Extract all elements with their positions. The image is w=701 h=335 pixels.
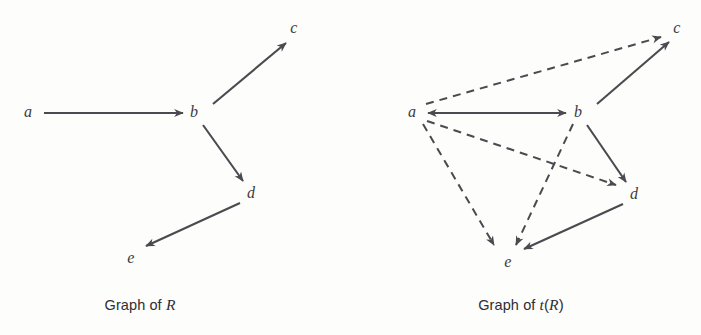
- node-label-graph-of-r-b: b: [190, 103, 198, 121]
- caption-math: R: [166, 296, 176, 313]
- edge-a-to-d-dashed: [427, 121, 616, 185]
- node-label-graph-of-t-r-c: c: [673, 19, 680, 37]
- node-label-graph-of-t-r-e: e: [504, 253, 511, 271]
- node-label-graph-of-r-e: e: [127, 249, 134, 267]
- edge-a-to-c-dashed: [426, 37, 661, 104]
- edge-b-to-c-solid: [213, 43, 286, 104]
- transitive-closure-figure: abcdeabcde Graph of RGraph of t(R): [0, 0, 701, 335]
- caption-prefix: Graph of: [105, 297, 166, 313]
- node-label-graph-of-r-d: d: [247, 184, 255, 202]
- node-label-graph-of-t-r-b: b: [574, 103, 582, 121]
- edge-d-to-e-solid: [146, 203, 240, 246]
- edge-d-to-e-solid: [524, 204, 623, 249]
- graph-edges-layer: [0, 0, 701, 335]
- edge-group: [44, 37, 669, 249]
- edge-b-to-d-solid: [587, 125, 626, 182]
- node-label-graph-of-t-r-a: a: [408, 103, 416, 121]
- caption-graph-of-t-r: Graph of t(R): [478, 296, 564, 314]
- edge-a-to-e-dashed: [423, 124, 494, 245]
- edge-b-to-d-solid: [203, 125, 243, 181]
- caption-paren-close: ): [559, 296, 564, 313]
- node-label-graph-of-r-c: c: [290, 19, 297, 37]
- caption-graph-of-r: Graph of R: [105, 296, 176, 314]
- caption-prefix: Graph of: [478, 297, 539, 313]
- node-label-graph-of-r-a: a: [24, 103, 32, 121]
- edge-b-to-e-dashed: [516, 124, 573, 245]
- node-label-graph-of-t-r-d: d: [630, 185, 638, 203]
